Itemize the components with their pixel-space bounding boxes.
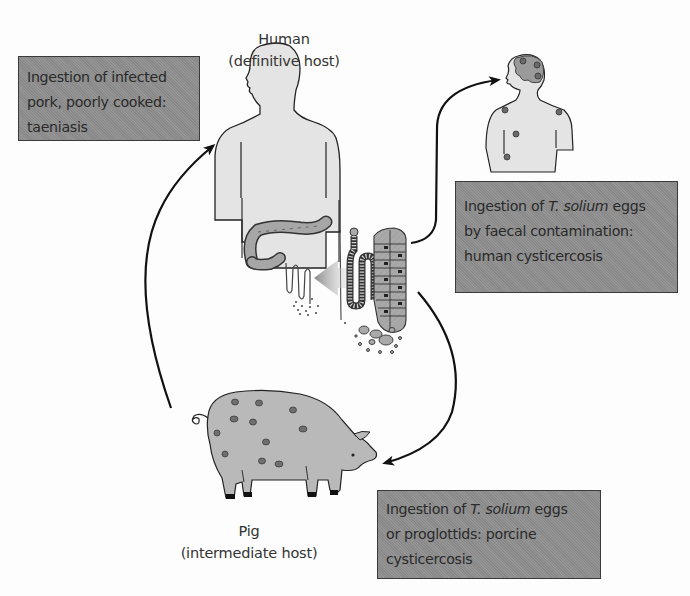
taeniasis-line-2: pork, poorly cooked: <box>27 90 199 115</box>
pig-figure <box>192 390 377 499</box>
line-text: eggs <box>608 198 645 214</box>
human-cysticercosis-line-2: by faecal contamination: <box>464 219 677 244</box>
porcine-cysticercosis-box: Ingestion of T. solium eggs or proglotti… <box>377 490 601 579</box>
eggs-cluster <box>355 326 402 354</box>
line-text: Ingestion of <box>464 198 548 214</box>
human-cysticercosis-box: Ingestion of T. solium eggs by faecal co… <box>455 181 678 293</box>
taeniasis-line-1: Ingestion of infected <box>27 65 199 90</box>
porcine-cysticercosis-line-1: Ingestion of T. solium eggs <box>386 497 600 522</box>
diagram-canvas: Human (definitive host) Pig (intermediat… <box>0 0 690 596</box>
porcine-cysticercosis-line-3: cysticercosis <box>386 547 600 572</box>
species-name: T. solium <box>548 198 608 214</box>
species-name: T. solium <box>470 501 530 517</box>
human-host-role: (definitive host) <box>222 50 346 72</box>
human-figure <box>215 43 340 268</box>
taeniasis-line-3: taeniasis <box>27 115 199 140</box>
human-cysticercosis-line-3: human cysticercosis <box>464 244 677 269</box>
pig-host-label: Pig (intermediate host) <box>172 520 326 564</box>
human-cysticercosis-figure <box>486 55 573 172</box>
taeniasis-box: Ingestion of infected pork, poorly cooke… <box>18 56 200 141</box>
pig-host-role: (intermediate host) <box>172 542 326 564</box>
line-text: Ingestion of <box>386 501 470 517</box>
line-text: eggs <box>530 501 567 517</box>
human-host-name: Human <box>222 28 346 50</box>
human-host-label: Human (definitive host) <box>222 28 346 72</box>
arrow-pig-to-human <box>145 146 213 408</box>
pig-host-name: Pig <box>172 520 326 542</box>
porcine-cysticercosis-line-2: or proglottids: porcine <box>386 522 600 547</box>
human-cysticercosis-line-1: Ingestion of T. solium eggs <box>464 194 677 219</box>
